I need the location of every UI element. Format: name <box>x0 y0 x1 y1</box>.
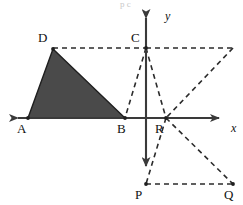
point-dot-r <box>164 116 168 120</box>
segment-R-Q <box>166 118 233 184</box>
point-dot-c <box>144 46 148 50</box>
geometry-figure: p c ABCDPQR y x <box>0 0 243 205</box>
point-label-d: D <box>38 31 47 44</box>
point-label-p: P <box>135 188 142 201</box>
segment-C-R <box>146 48 166 118</box>
shaded-triangle-ADB <box>28 49 125 118</box>
point-label-c: C <box>131 31 140 44</box>
point-dot-q <box>231 182 235 186</box>
y-axis-label: y <box>165 10 170 22</box>
point-dot-b <box>123 116 127 120</box>
point-label-q: Q <box>224 188 233 201</box>
point-label-a: A <box>17 122 26 135</box>
segment-E-R <box>166 48 233 118</box>
point-label-b: B <box>117 122 126 135</box>
x-axis-label: x <box>231 122 236 134</box>
figure-canvas <box>0 0 243 205</box>
point-dot-p <box>144 182 148 186</box>
segment-C-B <box>125 48 146 118</box>
point-dot-d <box>51 47 55 51</box>
point-dot-a <box>26 116 30 120</box>
point-label-r: R <box>155 122 164 135</box>
